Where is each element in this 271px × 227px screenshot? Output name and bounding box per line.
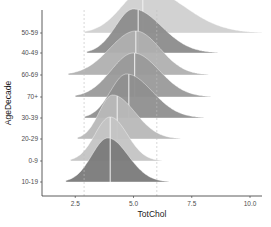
density-area xyxy=(85,0,262,33)
y-axis-ticks: 50-5940-4960-6970+30-3920-290-910-19 xyxy=(21,29,42,185)
y-tick-label: 40-49 xyxy=(21,49,38,56)
y-tick-label: 50-59 xyxy=(21,29,38,36)
x-tick-label: 7.5 xyxy=(187,200,196,207)
y-tick-label: 60-69 xyxy=(21,71,38,78)
y-tick-label: 10-19 xyxy=(21,178,38,185)
y-tick-label: 30-39 xyxy=(21,114,38,121)
y-tick-label: 0-9 xyxy=(29,157,39,164)
x-tick-label: 2.5 xyxy=(71,200,80,207)
ridge-50-59 xyxy=(85,0,262,33)
ridges xyxy=(66,0,262,182)
x-axis-ticks: 2.55.07.510.0 xyxy=(71,196,257,207)
x-axis-title: TotChol xyxy=(138,209,167,219)
y-tick-label: 20-29 xyxy=(21,135,38,142)
ridgeline-chart: 50-5940-4960-6970+30-3920-290-910-19 2.5… xyxy=(0,0,271,227)
x-tick-label: 5.0 xyxy=(129,200,138,207)
x-tick-label: 10.0 xyxy=(244,200,257,207)
y-axis-title: AgeDecade xyxy=(3,81,13,126)
y-tick-label: 70+ xyxy=(27,93,38,100)
